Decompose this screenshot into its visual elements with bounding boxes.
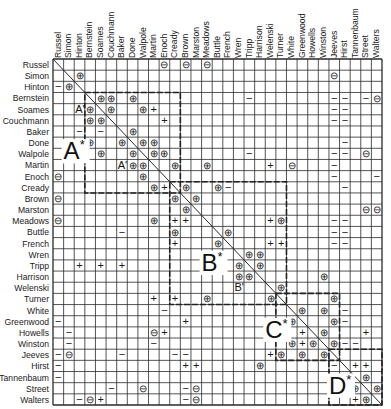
cell-symbol: + (267, 214, 273, 226)
cell-symbol: ⊖ (373, 93, 381, 104)
cell-symbol: ⊕ (86, 115, 94, 126)
cell-symbol: ⊕ (235, 260, 243, 271)
cell-symbol: − (363, 92, 369, 104)
cell-symbol: ⊕ (129, 126, 137, 137)
cell-symbol: ⊕ (97, 93, 105, 104)
cell-symbol: ⊕ (129, 160, 137, 171)
cell-symbol: − (119, 348, 125, 360)
cell-symbol: − (108, 382, 114, 394)
cell-symbol: − (55, 315, 61, 327)
cell-symbol: + (98, 393, 104, 405)
cell-symbol: ⊖ (288, 160, 296, 171)
cell-symbol: + (363, 359, 369, 371)
cell-symbol: ⊕ (267, 293, 275, 304)
cell-symbol: ⊕ (330, 338, 338, 349)
cell-symbol: ⊕ (150, 148, 158, 159)
cell-symbol: − (352, 337, 358, 349)
cell-symbol: ⊕ (139, 171, 147, 182)
cell-symbol: ⊕ (277, 215, 285, 226)
cell-symbol: ⊕ (150, 182, 158, 193)
cell-symbol: − (246, 92, 252, 104)
cell-symbol: − (76, 393, 82, 405)
cell-symbol: ⊖ (362, 148, 370, 159)
cell-symbol: − (331, 359, 337, 371)
cell-symbol: − (225, 181, 231, 193)
cell-symbol: ⊕ (182, 182, 190, 193)
cell-symbol: ⊕ (298, 305, 306, 316)
cell-symbol: ⊕ (320, 327, 328, 338)
cell-symbol: ⊕ (277, 282, 285, 293)
cell-symbol: ⊕ (362, 394, 370, 405)
cell-symbol: + (267, 348, 273, 360)
cell-symbol: ⊕ (150, 215, 158, 226)
cell-symbol: − (161, 304, 167, 316)
cell-symbol: ⊕ (150, 137, 158, 148)
cell-symbol: − (342, 181, 348, 193)
cell-symbol: ⊕ (65, 81, 73, 92)
cell-symbol: ⊕ (362, 372, 370, 383)
cell-symbol: − (119, 226, 125, 238)
cell-symbol: + (119, 259, 125, 271)
cell-symbol: + (151, 103, 157, 115)
cell-symbol: − (342, 237, 348, 249)
cell-symbol: ⊖ (203, 59, 211, 70)
cell-symbol: ⊕ (171, 193, 179, 204)
cell-symbol: − (151, 337, 157, 349)
sub-block-label: A' (118, 159, 127, 171)
cell-symbol: + (299, 337, 305, 349)
cell-symbol: ⊕ (330, 316, 338, 327)
cell-symbol: − (342, 147, 348, 159)
cell-symbol: ⊖ (182, 59, 190, 70)
cell-symbol: ⊕ (129, 93, 137, 104)
cell-symbol: ⊖ (86, 394, 94, 405)
cell-symbol: + (172, 237, 178, 249)
cell-symbol: ⊕ (256, 249, 264, 260)
cell-symbol: ⊖ (54, 171, 62, 182)
cell-symbol: ⊕ (214, 182, 222, 193)
cell-symbol: ⊕ (139, 104, 147, 115)
cell-symbol: ⊕ (97, 148, 105, 159)
cell-symbol: − (342, 337, 348, 349)
cell-symbol: + (161, 114, 167, 126)
cell-symbol: ⊕ (320, 349, 328, 360)
cell-symbol: − (55, 80, 61, 92)
cell-symbol: − (331, 114, 337, 126)
cell-symbol: ⊕ (160, 148, 168, 159)
cell-symbol: ⊕ (139, 160, 147, 171)
cell-symbol: + (161, 326, 167, 338)
cell-symbol: + (278, 237, 284, 249)
cell-symbol: ⊕ (129, 148, 137, 159)
cell-symbol: ⊕ (256, 260, 264, 271)
cell-symbol: ⊕ (224, 227, 232, 238)
sociomatrix-diagram: RusselSimonHintonBernsteinSoamesCouchman… (0, 0, 391, 409)
cell-symbol: + (98, 259, 104, 271)
cell-symbol: ⊖ (192, 394, 200, 405)
cell-symbol: ⊕ (107, 104, 115, 115)
cell-symbol: + (193, 359, 199, 371)
cell-symbol: − (182, 393, 188, 405)
cell-symbol: ⊕ (203, 160, 211, 171)
cell-symbol: + (182, 315, 188, 327)
cell-symbol: + (182, 214, 188, 226)
cell-symbol: − (98, 125, 104, 137)
cell-symbol: ⊖ (330, 70, 338, 81)
cell-symbol: ⊕ (277, 349, 285, 360)
cell-symbol: + (76, 259, 82, 271)
cell-symbol: − (331, 237, 337, 249)
cell-symbol: + (182, 359, 188, 371)
cell-symbol: ⊕ (298, 349, 306, 360)
cell-symbol: − (76, 125, 82, 137)
cell-symbol: + (363, 326, 369, 338)
cell-symbol: ⊕ (245, 271, 253, 282)
cell-symbol: ⊖ (65, 349, 73, 360)
cell-symbol: ⊕ (256, 360, 264, 371)
cell-symbol: − (66, 337, 72, 349)
cell-symbol: ⊕ (320, 305, 328, 316)
cell-symbol: ⊖ (54, 193, 62, 204)
cell-symbol: − (342, 114, 348, 126)
cell-symbol: + (267, 159, 273, 171)
cell-symbol: − (55, 371, 61, 383)
cell-symbol: ⊕ (76, 70, 84, 81)
cell-symbol: ⊖ (54, 215, 62, 226)
cell-symbol: ⊖ (160, 59, 168, 70)
